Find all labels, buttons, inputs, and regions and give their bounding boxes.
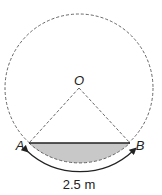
shaded-segment [29, 143, 130, 163]
arc-length-label: 2.5 m [63, 177, 96, 192]
circle-segment-diagram: O A B 2.5 m [0, 0, 162, 195]
radius-oa [29, 88, 79, 143]
center-label: O [74, 73, 84, 88]
point-b-label: B [136, 138, 145, 153]
radius-ob [79, 88, 130, 143]
point-a-label: A [15, 138, 25, 153]
